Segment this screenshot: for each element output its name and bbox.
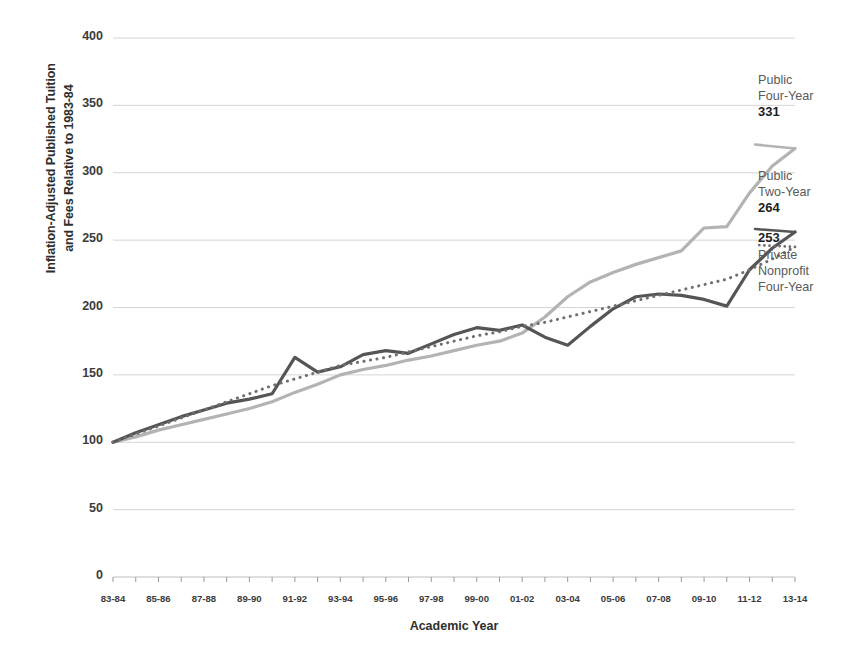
x-axis-tick-label: 07-08 [637, 593, 681, 604]
ann-public-four-year-line1: Public [758, 72, 814, 88]
y-axis-tick-label: 150 [61, 366, 103, 380]
y-axis-tick-label: 400 [61, 29, 103, 43]
x-axis-tick-label: 09-10 [682, 593, 726, 604]
x-axis-title: Academic Year [113, 619, 795, 633]
y-axis-tick-label: 350 [61, 96, 103, 110]
ann-private-nonprofit-value: 253 [758, 230, 814, 247]
y-axis-tick-label: 50 [61, 501, 103, 515]
x-axis-tick-label: 97-98 [409, 593, 453, 604]
x-axis-tick-label: 83-84 [91, 593, 135, 604]
x-axis-tick-label: 05-06 [591, 593, 635, 604]
chart-figure: Inflation-Adjusted Published Tuition and… [0, 0, 862, 663]
series-line [113, 247, 795, 442]
ann-public-four-year-line2: Four-Year [758, 88, 814, 104]
x-axis-tick-label: 95-96 [364, 593, 408, 604]
ann-private-nonprofit: 253 Private Nonprofit Four-Year [758, 230, 814, 295]
series-lines [113, 148, 795, 442]
annotation-leader-line [755, 144, 795, 148]
ann-public-four-year: Public Four-Year 331 [758, 72, 814, 121]
y-axis-tick-label: 0 [61, 568, 103, 582]
y-axis-tick-label: 300 [61, 164, 103, 178]
ann-public-two-year-line2: Two-Year [758, 184, 811, 200]
x-axis-tick-label: 85-86 [136, 593, 180, 604]
gridlines [113, 38, 795, 577]
x-axis-ticks [113, 577, 795, 582]
y-axis-title-line1: Inflation-Adjusted Published Tuition [44, 63, 58, 273]
series-line [113, 232, 795, 442]
ann-public-two-year: Public Two-Year 264 [758, 168, 811, 217]
x-axis-tick-label: 91-92 [273, 593, 317, 604]
x-axis-tick-label: 89-90 [227, 593, 271, 604]
x-axis-tick-label: 99-00 [455, 593, 499, 604]
x-axis-tick-label: 03-04 [546, 593, 590, 604]
plot-area [0, 0, 862, 663]
x-axis-tick-label: 13-14 [773, 593, 817, 604]
ann-private-nonprofit-line3: Four-Year [758, 279, 814, 295]
ann-public-two-year-line1: Public [758, 168, 811, 184]
ann-public-four-year-value: 331 [758, 104, 814, 121]
y-axis-tick-label: 200 [61, 299, 103, 313]
x-axis-tick-label: 87-88 [182, 593, 226, 604]
ann-private-nonprofit-line2: Nonprofit [758, 263, 814, 279]
x-axis-tick-label: 11-12 [728, 593, 772, 604]
ann-public-two-year-value: 264 [758, 200, 811, 217]
series-line [113, 148, 795, 442]
ann-private-nonprofit-line1: Private [758, 247, 814, 263]
y-axis-tick-label: 100 [61, 433, 103, 447]
y-axis-tick-label: 250 [61, 231, 103, 245]
x-axis-tick-label: 01-02 [500, 593, 544, 604]
x-axis-tick-label: 93-94 [318, 593, 362, 604]
